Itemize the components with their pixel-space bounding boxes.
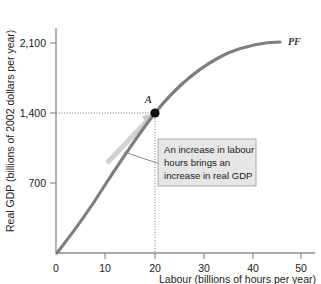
pf-curve-label: PF [288,36,301,47]
point-a-marker [150,108,159,117]
y-tick-label-1400: 1,400 [20,107,46,119]
callout-line-2: hours brings an [164,157,230,168]
production-function-chart: 2,100 1,400 700 0 10 20 30 40 50 Labour … [0,0,321,284]
y-axis-title: Real GDP (billions of 2002 dollars per y… [4,30,16,232]
callout-line-3: increase in real GDP [164,170,253,181]
y-tick-label-700: 700 [28,177,46,189]
y-tick-label-2100: 2,100 [20,37,46,49]
increase-callout: An increase in labour hours brings an in… [158,139,256,186]
callout-line-1: An increase in labour [164,144,255,155]
x-axis-title: Labour (billions of hours per year) [159,273,316,284]
x-tick-label-10: 10 [99,262,111,274]
point-a-label: A [144,93,152,105]
x-tick-label-0: 0 [53,262,59,274]
